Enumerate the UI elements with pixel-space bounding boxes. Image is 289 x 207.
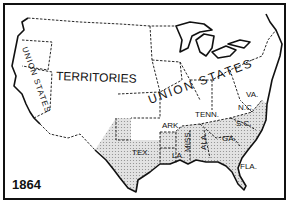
label-territories: TERRITORIES [56,69,137,86]
great-lakes [176,22,250,58]
year-label: 1864 [12,177,41,192]
label-ala: ALA. [199,133,208,150]
label-tex: TEX. [132,148,150,157]
label-miss: MISS. [183,130,192,152]
label-fla: FLA. [240,162,257,171]
label-sc: S.C. [236,119,252,128]
label-ark: ARK. [162,121,181,130]
northern-border [28,18,176,26]
label-ga: GA. [222,134,236,143]
label-nc: N.C. [238,103,254,112]
label-union-states-west: UNION STATES [20,46,52,115]
us-map-1864: TERRITORIES UNION STATES UNION STATES TE… [0,0,289,207]
label-tenn: TENN. [195,110,219,119]
southern-territory-border [40,124,95,150]
label-va: VA. [246,90,258,99]
label-union-states-main: UNION STATES [146,56,255,107]
